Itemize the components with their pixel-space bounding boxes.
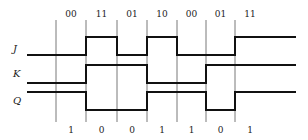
jk-input-label: 11 [244,9,255,19]
q-output-label: 1 [68,125,74,135]
waveforms [27,37,296,110]
q-output-label: 0 [129,125,135,135]
signal-names: JKQ [11,43,21,106]
jk-input-label: 00 [65,9,77,19]
waveform-j [27,37,296,55]
q-output-label: 0 [99,125,105,135]
q-output-label: 1 [247,125,253,135]
signal-label-j: J [11,43,18,54]
waveform-k [27,65,296,83]
jk-input-labels: 00110110000111 [65,9,255,19]
jk-input-label: 01 [126,9,137,19]
q-output-label: 0 [218,125,224,135]
waveform-q [27,92,296,110]
signal-label-k: K [12,68,21,79]
signal-label-q: Q [13,95,21,106]
jk-input-label: 10 [156,9,168,19]
timing-diagram: 00110110000111 1001101 JKQ [0,0,308,140]
jk-input-label: 00 [186,9,198,19]
q-output-label: 1 [159,125,165,135]
q-output-label: 1 [189,125,195,135]
jk-input-label: 01 [215,9,226,19]
jk-input-label: 11 [96,9,107,19]
clock-edge-lines [56,20,235,122]
q-output-labels: 1001101 [68,125,253,135]
